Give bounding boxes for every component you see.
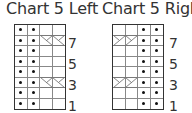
purl-stitch-cell [151,78,164,89]
knit-stitch-cell [113,57,126,68]
purl-stitch-cell [15,67,28,78]
row-label-1: 1 [169,99,178,113]
purl-stitch-cell [151,57,164,68]
purl-stitch-cell [15,46,28,57]
row-label-7: 7 [68,36,77,50]
purl-stitch-cell [15,78,28,89]
knit-stitch-cell [40,46,53,57]
purl-stitch-cell [138,67,151,78]
purl-stitch-cell [28,57,41,68]
cable-cross-icon [40,77,65,88]
purl-stitch-cell [15,36,28,47]
knit-stitch-cell [126,57,139,68]
purl-stitch-cell [28,25,41,36]
purl-stitch-cell [138,99,151,110]
purl-stitch-cell [138,46,151,57]
knit-stitch-cell [40,57,53,68]
chart-title-right: Chart 5 Right [102,0,192,19]
purl-stitch-cell [151,25,164,36]
knit-stitch-cell [40,99,53,110]
knit-stitch-cell [126,46,139,57]
cable-cross-icon [113,77,138,88]
purl-stitch-cell [15,57,28,68]
purl-stitch-cell [15,88,28,99]
purl-stitch-cell [138,25,151,36]
purl-stitch-cell [151,88,164,99]
purl-stitch-cell [138,78,151,89]
purl-stitch-cell [151,46,164,57]
knit-stitch-cell [113,46,126,57]
knit-stitch-cell [113,88,126,99]
knit-stitch-cell [40,88,53,99]
purl-stitch-cell [151,99,164,110]
purl-stitch-cell [28,88,41,99]
row-label-5: 5 [68,57,77,71]
row-label-3: 3 [68,78,77,92]
purl-stitch-cell [15,25,28,36]
knit-stitch-cell [126,88,139,99]
knit-stitch-cell [53,99,66,110]
purl-stitch-cell [28,67,41,78]
row-label-3: 3 [169,78,178,92]
knit-stitch-cell [53,57,66,68]
purl-stitch-cell [138,36,151,47]
cable-cross-icon [113,35,138,46]
purl-stitch-cell [151,36,164,47]
purl-stitch-cell [28,36,41,47]
purl-stitch-cell [138,57,151,68]
purl-stitch-cell [28,46,41,57]
row-label-1: 1 [68,99,77,113]
purl-stitch-cell [138,88,151,99]
knit-stitch-cell [113,99,126,110]
chart-title-left: Chart 5 Left [6,0,98,19]
knit-stitch-cell [53,46,66,57]
purl-stitch-cell [15,99,28,110]
row-label-7: 7 [169,36,178,50]
cable-cross-icon [40,35,65,46]
purl-stitch-cell [28,78,41,89]
purl-stitch-cell [151,67,164,78]
purl-stitch-cell [28,99,41,110]
knit-stitch-cell [126,99,139,110]
row-label-5: 5 [169,57,178,71]
knit-stitch-cell [53,88,66,99]
